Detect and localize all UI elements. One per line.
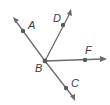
label-C: C <box>71 77 79 89</box>
point-A <box>21 29 25 33</box>
arrowhead-icon <box>67 9 72 16</box>
ray-BD: D <box>45 9 72 61</box>
label-F: F <box>85 44 93 56</box>
label-A: A <box>27 19 35 31</box>
arrowhead-icon <box>13 17 19 23</box>
ray-BC: C <box>45 61 79 101</box>
rays-diagram: A D F C B <box>0 0 110 105</box>
point-D <box>61 23 65 27</box>
arrowhead-icon <box>100 56 107 62</box>
point-B <box>43 59 48 64</box>
point-C <box>64 86 68 90</box>
ray-BF: F <box>45 44 107 62</box>
ray-BF-line <box>45 59 103 61</box>
label-B: B <box>35 62 42 74</box>
ray-BA: A <box>13 17 45 61</box>
ray-BC-line <box>45 61 73 97</box>
point-F <box>83 58 87 62</box>
label-D: D <box>53 12 61 24</box>
